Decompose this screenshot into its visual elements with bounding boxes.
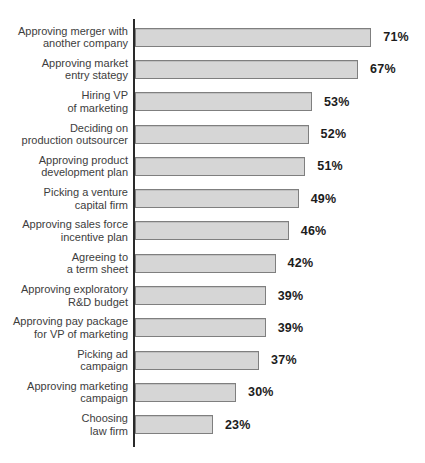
category-label: Approving pay package for VP of marketin… — [0, 315, 135, 340]
category-label: Hiring VP of marketing — [0, 89, 135, 114]
value-label: 49% — [311, 192, 337, 206]
category-label: Picking ad campaign — [0, 348, 135, 373]
category-label: Approving merger with another company — [0, 25, 135, 50]
bar — [135, 92, 312, 111]
bar-row: Approving merger with another company 71… — [0, 21, 425, 53]
bar-row: Picking ad campaign 37% — [0, 344, 425, 376]
value-label: 71% — [383, 30, 409, 44]
bar-row: Approving product development plan 51% — [0, 150, 425, 182]
bar-chart: Approving merger with another company 71… — [0, 0, 425, 463]
bar — [135, 415, 213, 434]
bar — [135, 157, 305, 176]
value-label: 51% — [317, 159, 343, 173]
bar-row: Approving market entry stategy 67% — [0, 53, 425, 85]
bar-row: Agreeing to a term sheet 42% — [0, 247, 425, 279]
bar — [135, 189, 299, 208]
bar — [135, 318, 266, 337]
value-label: 39% — [278, 289, 304, 303]
bar-row: Approving pay package for VP of marketin… — [0, 312, 425, 344]
value-label: 23% — [225, 418, 251, 432]
bar-row: Choosing law firm 23% — [0, 409, 425, 441]
category-label: Picking a venture capital firm — [0, 186, 135, 211]
category-label: Deciding on production outsourcer — [0, 122, 135, 147]
bar — [135, 351, 259, 370]
bar — [135, 28, 371, 47]
value-label: 67% — [370, 62, 396, 76]
bar-row: Deciding on production outsourcer 52% — [0, 118, 425, 150]
value-label: 53% — [324, 95, 350, 109]
category-label: Approving marketing campaign — [0, 380, 135, 405]
value-label: 39% — [278, 321, 304, 335]
value-label: 37% — [271, 353, 297, 367]
y-axis-line — [133, 19, 135, 447]
value-label: 52% — [321, 127, 347, 141]
bar — [135, 383, 236, 402]
category-label: Choosing law firm — [0, 412, 135, 437]
category-label: Approving market entry stategy — [0, 57, 135, 82]
bar — [135, 60, 358, 79]
bar — [135, 221, 289, 240]
bar-row: Approving sales force incentive plan 46% — [0, 215, 425, 247]
category-label: Approving exploratory R&D budget — [0, 283, 135, 308]
bar-row: Approving exploratory R&D budget 39% — [0, 279, 425, 311]
category-label: Approving sales force incentive plan — [0, 218, 135, 243]
bar — [135, 254, 276, 273]
category-label: Agreeing to a term sheet — [0, 251, 135, 276]
category-label: Approving product development plan — [0, 154, 135, 179]
bar-row: Approving marketing campaign 30% — [0, 376, 425, 408]
value-label: 46% — [301, 224, 327, 238]
bar-row: Picking a venture capital firm 49% — [0, 182, 425, 214]
value-label: 30% — [248, 385, 274, 399]
bar — [135, 125, 309, 144]
bar — [135, 286, 266, 305]
value-label: 42% — [288, 256, 314, 270]
bar-row: Hiring VP of marketing 53% — [0, 86, 425, 118]
